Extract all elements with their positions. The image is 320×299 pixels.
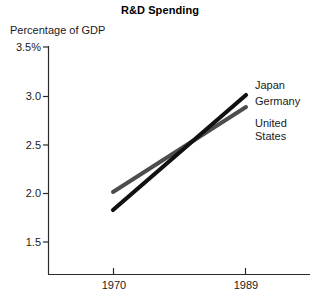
series-line-japan xyxy=(113,95,246,210)
series-label-japan: Japan xyxy=(255,79,285,92)
x-tick-label-1970: 1970 xyxy=(84,279,144,291)
series-line-germany xyxy=(113,107,246,192)
y-tick-label-4: 1.5 xyxy=(0,237,41,248)
rd-spending-chart: R&D Spending Percentage of GDP 3.5% 3.0 xyxy=(0,0,320,299)
x-tick-label-1989: 1989 xyxy=(216,279,276,291)
series-label-united-states: United States xyxy=(255,117,287,143)
series-label-germany: Germany xyxy=(255,95,300,108)
y-tick-label-1: 3.0 xyxy=(0,91,41,102)
plot-area xyxy=(0,0,320,299)
y-tick-label-3: 2.0 xyxy=(0,188,41,199)
y-axis-ticks xyxy=(43,47,49,242)
y-tick-label-0: 3.5% xyxy=(0,42,41,53)
x-axis-ticks xyxy=(114,268,246,275)
y-tick-label-2: 2.5 xyxy=(0,140,41,151)
